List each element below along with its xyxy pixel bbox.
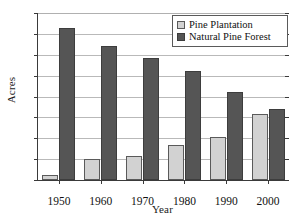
x-tick-label: 1970 <box>120 195 166 207</box>
y-tick-mark <box>34 34 38 35</box>
bar <box>42 175 58 180</box>
legend-swatch-icon <box>177 33 185 41</box>
x-tick-mark <box>59 180 60 184</box>
bar <box>126 156 142 180</box>
y-tick-mark-right <box>285 138 289 139</box>
y-tick-mark <box>34 97 38 98</box>
x-tick-mark <box>101 180 102 184</box>
x-tick-label: 1950 <box>36 195 82 207</box>
y-tick-mark-right <box>285 180 289 181</box>
legend-label: Pine Plantation <box>189 20 253 31</box>
legend-item-natural-pine-forest: Natural Pine Forest <box>177 31 283 43</box>
y-tick-mark-right <box>285 97 289 98</box>
y-tick-mark-right <box>285 159 289 160</box>
bar <box>59 28 75 180</box>
legend-item-pine-plantation: Pine Plantation <box>177 19 283 31</box>
bar-chart: Acres Year 01020304050607080 19501960197… <box>0 0 300 224</box>
y-tick-mark <box>34 159 38 160</box>
bar <box>185 71 201 180</box>
bar <box>252 114 268 180</box>
bar <box>101 46 117 180</box>
y-tick-mark <box>34 180 38 181</box>
y-tick-mark <box>34 76 38 77</box>
chart-legend: Pine Plantation Natural Pine Forest <box>172 15 288 47</box>
gridline <box>38 13 289 14</box>
gridline <box>38 97 289 98</box>
y-tick-mark <box>34 138 38 139</box>
legend-swatch-icon <box>177 21 185 29</box>
y-tick-mark <box>34 55 38 56</box>
x-tick-label: 1980 <box>161 195 207 207</box>
bar <box>210 137 226 180</box>
y-axis-title: Acres <box>5 60 17 120</box>
gridline <box>38 76 289 77</box>
bar <box>269 109 285 180</box>
y-tick-mark-right <box>285 13 289 14</box>
x-tick-mark <box>268 180 269 184</box>
x-tick-label: 1990 <box>203 195 249 207</box>
x-tick-label: 2000 <box>245 195 291 207</box>
y-tick-mark <box>34 13 38 14</box>
x-tick-label: 1960 <box>78 195 124 207</box>
y-tick-mark-right <box>285 76 289 77</box>
y-tick-mark-right <box>285 55 289 56</box>
bar <box>168 145 184 180</box>
x-tick-mark <box>143 180 144 184</box>
legend-label: Natural Pine Forest <box>189 32 271 43</box>
gridline <box>38 55 289 56</box>
x-tick-mark <box>226 180 227 184</box>
y-tick-mark <box>34 117 38 118</box>
bar <box>143 58 159 180</box>
y-tick-mark-right <box>285 117 289 118</box>
x-tick-mark <box>184 180 185 184</box>
bar <box>227 92 243 180</box>
bar <box>84 159 100 180</box>
